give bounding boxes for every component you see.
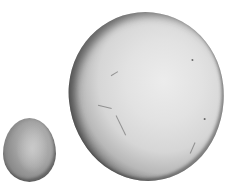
surface-mark <box>111 71 118 76</box>
large-egg <box>61 4 231 188</box>
surface-mark <box>190 142 196 153</box>
surface-mark <box>98 105 112 109</box>
photo-scene: Two pale grey eggs/spheres on white back… <box>0 0 231 192</box>
small-egg <box>3 118 56 182</box>
surface-mark <box>116 115 127 135</box>
surface-speck <box>204 118 206 120</box>
surface-speck <box>191 59 193 61</box>
